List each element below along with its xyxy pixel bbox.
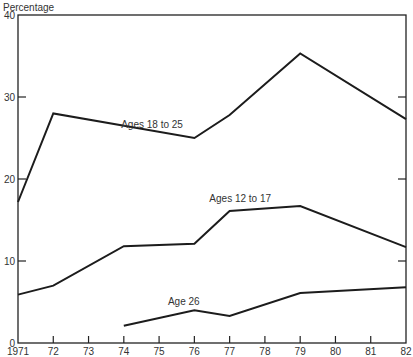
y-tick-label: 20 bbox=[4, 174, 16, 185]
series-label-0: Ages 18 to 25 bbox=[121, 119, 183, 130]
y-tick-label: 40 bbox=[4, 10, 16, 21]
x-tick-label: 78 bbox=[259, 346, 271, 357]
x-tick-label: 75 bbox=[154, 346, 166, 357]
series-group: Ages 18 to 25Ages 12 to 17Age 26 bbox=[18, 54, 406, 326]
x-tick-label: 77 bbox=[224, 346, 236, 357]
x-tick-label: 80 bbox=[330, 346, 342, 357]
y-tick-label: 30 bbox=[4, 92, 16, 103]
series-label-1: Ages 12 to 17 bbox=[209, 193, 271, 204]
series-label-2: Age 26 bbox=[168, 296, 200, 307]
x-axis: 19717273747576777879808182 bbox=[7, 336, 412, 357]
series-line-0 bbox=[18, 54, 406, 203]
x-tick-label: 73 bbox=[83, 346, 95, 357]
y-tick-label: 10 bbox=[4, 256, 16, 267]
x-tick-label: 81 bbox=[365, 346, 377, 357]
series-line-2 bbox=[124, 287, 406, 326]
x-tick-label: 1971 bbox=[7, 346, 30, 357]
line-chart: Percentage 010203040 1971727374757677787… bbox=[0, 0, 413, 357]
x-tick-label: 82 bbox=[400, 346, 412, 357]
x-tick-label: 76 bbox=[189, 346, 201, 357]
y-axis: 010203040 bbox=[4, 10, 406, 349]
x-tick-label: 74 bbox=[118, 346, 130, 357]
plot-frame bbox=[18, 15, 406, 343]
x-tick-label: 72 bbox=[48, 346, 60, 357]
series-line-1 bbox=[18, 206, 406, 295]
x-tick-label: 79 bbox=[295, 346, 307, 357]
